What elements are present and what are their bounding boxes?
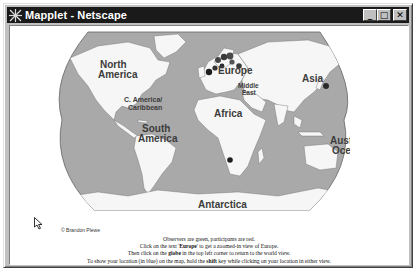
label-middle-east-2: East [242, 89, 257, 96]
netscape-app-icon[interactable] [9, 9, 22, 22]
instruction-text: Then click on the [128, 250, 168, 256]
label-middle-east: Middle [238, 82, 259, 89]
instruction-line-1: Observers are green, participants are re… [10, 236, 408, 243]
label-oceania: Oceania [332, 145, 350, 156]
maximize-icon: □ [380, 11, 389, 20]
mouse-cursor-icon [34, 216, 43, 234]
label-caribbean: Caribbean [128, 104, 162, 111]
label-central-america: C. America/ [124, 96, 162, 103]
shift-keyword: shift [206, 258, 217, 264]
label-antarctica: Antarctica [198, 199, 247, 210]
minimize-button[interactable]: _ [363, 9, 377, 21]
instructions-text: Observers are green, participants are re… [10, 236, 408, 265]
label-asia: Asia [302, 73, 324, 84]
globe-keyword: globe [168, 250, 181, 256]
window-controls: _ □ ✕ [363, 9, 407, 21]
instruction-line-3: Then click on the globe in the top left … [10, 250, 408, 257]
title-bar[interactable]: Mapplet - Netscape _ □ ✕ [7, 7, 409, 23]
minimize-icon: _ [368, 11, 373, 20]
world-map-applet[interactable]: North America C. America/ Caribbean Sout… [58, 28, 350, 212]
label-europe: Europe [218, 65, 253, 76]
label-africa: Africa [214, 108, 243, 119]
browser-window: Mapplet - Netscape _ □ ✕ [3, 3, 413, 268]
instruction-line-4: To show your location (in blue) on the m… [10, 258, 408, 265]
europe-keyword: Europe [179, 243, 197, 249]
map-credit: © Brandon Plewe [61, 227, 100, 233]
close-icon: ✕ [396, 11, 404, 20]
close-button[interactable]: ✕ [393, 9, 407, 21]
label-south-america-2: America [138, 133, 178, 144]
label-north-america-2: America [98, 69, 138, 80]
maximize-button[interactable]: □ [377, 9, 391, 21]
instruction-text: key while clicking on your location in e… [217, 258, 331, 264]
page-content: North America C. America/ Caribbean Sout… [9, 25, 409, 265]
instruction-text: To show your location (in blue) on the m… [87, 258, 206, 264]
instruction-line-2: Click on the text 'Europe' to get a zoom… [10, 243, 408, 250]
instruction-text: Click on the text ' [140, 243, 180, 249]
instruction-text: ' to get a zoomed-in view of Europe. [197, 243, 278, 249]
instruction-text: in the top left corner to return to the … [181, 250, 290, 256]
window-title: Mapplet - Netscape [25, 9, 127, 21]
